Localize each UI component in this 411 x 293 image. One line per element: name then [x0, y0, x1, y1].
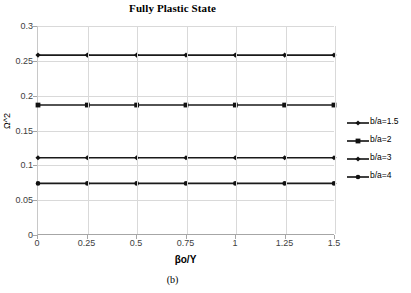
x-axis-tick-mark: [37, 235, 38, 239]
x-axis-tick-mark: [136, 235, 137, 239]
y-axis-tick-label: 0.25: [0, 56, 33, 66]
gridline-vertical: [286, 26, 287, 234]
x-axis-tick-mark: [186, 235, 187, 239]
x-axis-tick-labels: 00.250.50.7511.251.5: [37, 238, 334, 252]
data-point-marker: [35, 53, 40, 58]
legend-label: b/a=1.5: [370, 117, 399, 126]
y-axis-tick-mark: [33, 26, 37, 27]
x-axis-tick-label: 1.25: [265, 238, 305, 248]
legend-label: b/a=4: [370, 171, 392, 180]
legend-item[interactable]: b/a=4: [347, 166, 411, 184]
legend-label: b/a=3: [370, 153, 392, 162]
figure-container: Fully Plastic State 00.050.10.150.20.250…: [0, 0, 411, 293]
legend-marker-icon: [347, 115, 369, 127]
legend-label: b/a=2: [370, 135, 392, 144]
data-point-marker: [356, 175, 361, 180]
y-axis-tick-mark: [33, 200, 37, 201]
x-axis-tick-mark: [285, 235, 286, 239]
legend-marker-icon: [347, 133, 369, 145]
data-point-marker: [35, 155, 40, 160]
x-axis-tick-label: 0.75: [166, 238, 206, 248]
y-axis-tick-mark: [33, 96, 37, 97]
y-axis-tick-mark: [33, 165, 37, 166]
data-point-marker: [36, 181, 41, 186]
x-axis-tick-mark: [235, 235, 236, 239]
y-axis-tick-mark: [33, 61, 37, 62]
legend-item[interactable]: b/a=3: [347, 148, 411, 166]
legend-marker-icon: [347, 169, 369, 181]
gridline-vertical: [137, 26, 138, 234]
x-axis-tick-mark: [87, 235, 88, 239]
y-axis-title: Ω^2: [2, 101, 12, 141]
data-point-marker: [355, 120, 360, 125]
y-axis-tick-label: 0.2: [0, 91, 33, 101]
gridline-vertical: [187, 26, 188, 234]
x-axis-title: βo/Y: [37, 254, 334, 265]
chart-title: Fully Plastic State: [0, 2, 345, 14]
legend-marker-icon: [347, 151, 369, 163]
figure-caption: (b): [0, 274, 345, 285]
y-axis-tick-label: 0.3: [0, 21, 33, 31]
gridline-vertical: [236, 26, 237, 234]
plot-area: [37, 26, 334, 235]
legend-item[interactable]: b/a=2: [347, 130, 411, 148]
x-axis-tick-label: 0.5: [116, 238, 156, 248]
y-axis-tick-label: 0.1: [0, 160, 33, 170]
data-point-marker: [355, 156, 360, 161]
data-point-marker: [356, 139, 361, 144]
gridline-vertical: [335, 26, 336, 234]
x-axis-tick-label: 1.5: [314, 238, 354, 248]
x-axis-tick-label: 0: [17, 238, 57, 248]
gridline-vertical: [88, 26, 89, 234]
legend-item[interactable]: b/a=1.5: [347, 112, 411, 130]
data-point-marker: [36, 103, 41, 108]
chart-legend: b/a=1.5b/a=2b/a=3b/a=4: [347, 112, 411, 184]
y-axis-tick-mark: [33, 131, 37, 132]
x-axis-tick-label: 0.25: [67, 238, 107, 248]
x-axis-tick-label: 1: [215, 238, 255, 248]
y-axis-tick-label: 0.05: [0, 195, 33, 205]
x-axis-tick-mark: [334, 235, 335, 239]
